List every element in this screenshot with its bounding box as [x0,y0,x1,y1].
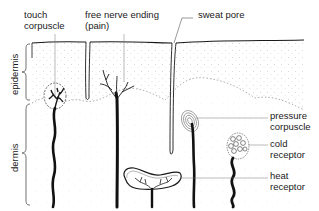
epidermis-bracket [22,44,30,100]
free-nerve-ending-label: free nerve ending (pain) [85,9,159,31]
skin-receptors-diagram: epidermis dermis touch corpuscle free ne… [0,0,319,211]
cold-receptor-label: cold receptor [270,138,305,160]
pressure-corpuscle-label: pressure corpuscle [270,110,311,132]
heat-receptor-label: heat receptor [270,170,305,192]
sweat-pore-leader [174,18,193,43]
epidermis-label: epidermis [9,54,20,95]
dermis-label: dermis [9,143,20,172]
dermis-bracket [22,104,30,205]
sweat-pore-label: sweat pore [198,9,244,20]
dermis-region [32,95,304,207]
touch-corpuscle-label: touch corpuscle [24,9,65,31]
